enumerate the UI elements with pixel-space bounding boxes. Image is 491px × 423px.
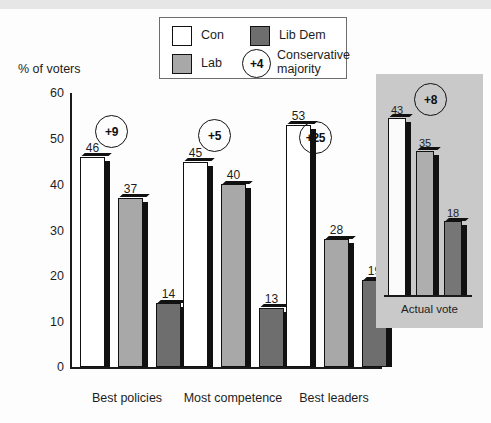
bar-best-policies-libdem[interactable]: 14 <box>156 303 181 367</box>
legend-swatch-libdem <box>250 26 270 46</box>
y-tick-0: 0 <box>20 360 64 374</box>
inset-x-axis-line <box>384 295 472 297</box>
category-label-best-leaders: Best leaders <box>286 391 382 405</box>
inset-actual-vote: +8 43 35 18 Actual vote <box>376 74 483 328</box>
category-label-most-competence: Most competence <box>173 391 293 405</box>
legend-label-con: Con <box>201 29 224 42</box>
bar-value-label: 40 <box>227 168 240 182</box>
majority-badge-best-leaders: +25 <box>299 121 332 154</box>
bar-best-policies-lab[interactable]: 37 <box>118 198 143 367</box>
legend-majority-badge: +4 <box>242 49 271 78</box>
inset-bar-lab[interactable]: 35 <box>416 151 434 296</box>
legend-swatch-lab <box>172 54 192 74</box>
bar-value-label: 35 <box>419 137 431 149</box>
bar-value-label: 37 <box>124 182 137 196</box>
bar-value-label: 13 <box>265 292 278 306</box>
inset-plot-area: 43 35 18 <box>384 118 476 296</box>
bar-best-leaders-con[interactable]: 53 <box>286 125 311 367</box>
majority-badge-most-competence: +5 <box>198 119 231 152</box>
bar-chart: % of voters 60 50 40 30 20 10 0 46 37 14 <box>0 0 491 423</box>
legend-swatch-con <box>172 26 192 46</box>
legend-majority-label-line1: Conservative <box>277 49 350 62</box>
bar-shadow <box>433 155 439 296</box>
y-tick-20: 20 <box>20 269 64 283</box>
bar-value-label: 45 <box>189 146 202 160</box>
bar-shadow <box>461 225 467 296</box>
bar-value-label: 18 <box>447 207 459 219</box>
y-tick-40: 40 <box>20 178 64 192</box>
bar-most-competence-con[interactable]: 45 <box>183 162 208 368</box>
bar-value-label: 53 <box>292 109 305 123</box>
y-axis-tick-labels: 60 50 40 30 20 10 0 <box>16 0 64 423</box>
legend-label-lab: Lab <box>201 57 222 70</box>
y-tick-50: 50 <box>20 132 64 146</box>
bar-shadow <box>245 188 251 367</box>
y-tick-30: 30 <box>20 224 64 238</box>
inset-majority-badge: +8 <box>414 83 447 116</box>
y-tick-60: 60 <box>20 86 64 100</box>
bar-shadow <box>310 129 316 367</box>
legend: Con Lib Dem Lab +4 Conservative majority <box>159 17 347 79</box>
inset-bar-libdem[interactable]: 18 <box>444 221 462 296</box>
bar-shadow <box>348 243 354 367</box>
bar-most-competence-libdem[interactable]: 13 <box>259 308 284 367</box>
bar-best-leaders-lab[interactable]: 28 <box>324 239 349 367</box>
category-label-best-policies: Best policies <box>77 391 177 405</box>
legend-label-libdem: Lib Dem <box>279 29 326 42</box>
inset-bar-con[interactable]: 43 <box>388 118 406 296</box>
bar-value-label: 14 <box>162 287 175 301</box>
y-tick-10: 10 <box>20 315 64 329</box>
bar-shadow <box>405 122 411 296</box>
bar-shadow <box>207 166 213 368</box>
bar-value-label: 28 <box>330 223 343 237</box>
top-edge-strip <box>0 0 491 9</box>
bar-most-competence-lab[interactable]: 40 <box>221 184 246 367</box>
inset-caption: Actual vote <box>376 303 483 315</box>
bar-value-label: 46 <box>86 141 99 155</box>
x-axis-line <box>70 367 382 369</box>
bar-value-label: 43 <box>391 104 403 116</box>
legend-majority-label-line2: majority <box>277 63 321 76</box>
bar-shadow <box>104 161 110 367</box>
bar-shadow <box>142 202 148 367</box>
majority-badge-best-policies: +9 <box>95 115 128 148</box>
bar-best-policies-con[interactable]: 46 <box>80 157 105 367</box>
